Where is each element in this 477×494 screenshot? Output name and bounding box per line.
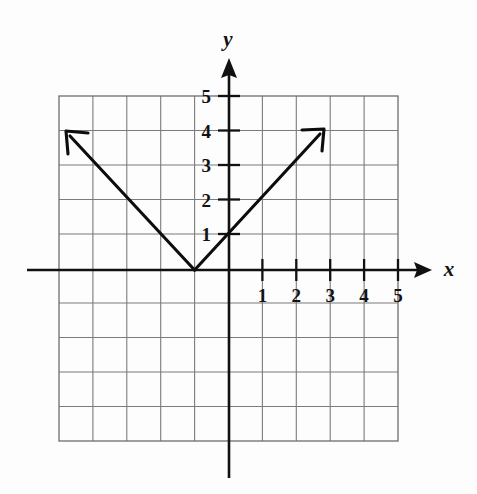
x-tick-label-1: 1	[258, 285, 268, 306]
x-tick-label-3: 3	[325, 285, 335, 306]
y-tick-label-4: 4	[202, 121, 212, 142]
function-right-branch	[195, 134, 320, 270]
x-tick-label-2: 2	[292, 285, 302, 306]
coordinate-plane-graph: 1 2 3 4 5 1 2 3 4 5 x y	[0, 0, 477, 494]
y-axis-arrowhead	[221, 58, 237, 78]
y-tick-label-3: 3	[202, 155, 212, 176]
y-axis-label: y	[220, 27, 233, 51]
tick-marks	[218, 96, 398, 281]
x-tick-label-5: 5	[393, 285, 403, 306]
function-left-branch	[70, 136, 195, 270]
x-axis-label: x	[443, 257, 455, 281]
y-tick-label-5: 5	[202, 86, 212, 107]
y-axis-tick-labels: 1 2 3 4 5	[202, 86, 212, 245]
y-tick-label-1: 1	[202, 224, 212, 245]
y-tick-label-2: 2	[202, 190, 212, 211]
x-tick-label-4: 4	[359, 285, 369, 306]
graph-figure: 1 2 3 4 5 1 2 3 4 5 x y	[0, 0, 477, 494]
axes	[27, 58, 432, 478]
